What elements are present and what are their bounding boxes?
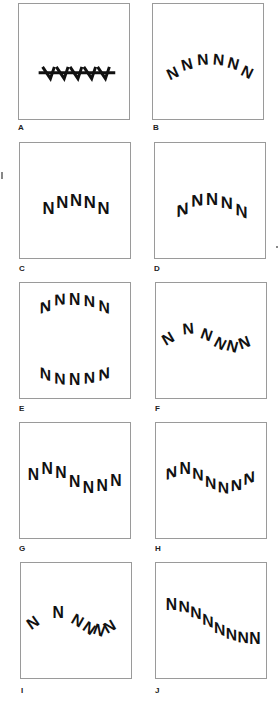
svg-text:N: N — [69, 371, 80, 388]
svg-text:N: N — [97, 477, 108, 494]
svg-text:N: N — [23, 612, 42, 632]
panel-e: N N N N N N N N N N — [19, 282, 131, 399]
svg-text:N: N — [190, 603, 201, 623]
panel-d-label: D — [154, 264, 160, 273]
svg-text:N: N — [202, 610, 213, 632]
svg-text:N: N — [218, 478, 229, 497]
svg-text:N: N — [40, 296, 51, 317]
panel-a-graphic — [19, 4, 129, 119]
panel-j: N N N N N N N N — [155, 562, 267, 679]
svg-text:N: N — [98, 199, 110, 218]
panel-c-label: C — [19, 264, 25, 273]
panel-b-label: B — [153, 123, 159, 132]
panel-i: N N N N N N — [20, 562, 132, 679]
panel-a-label: A — [18, 123, 24, 132]
svg-text:N: N — [40, 363, 51, 384]
panel-h-label: H — [155, 544, 161, 553]
panel-j-label: J — [155, 686, 159, 695]
svg-text:N: N — [226, 54, 241, 73]
panel-e-graphic: N N N N N N N N N N — [20, 283, 130, 398]
svg-text:N: N — [84, 193, 96, 212]
svg-text:N: N — [56, 193, 68, 212]
panel-j-graphic: N N N N N N N N — [156, 563, 266, 678]
svg-text:N: N — [231, 476, 242, 495]
svg-text:N: N — [197, 51, 210, 69]
svg-text:N: N — [192, 464, 203, 484]
svg-text:N: N — [179, 55, 194, 74]
panel-f: N N N N N N — [155, 282, 267, 399]
svg-text:N: N — [221, 193, 233, 214]
svg-text:N: N — [54, 369, 65, 388]
svg-text:N: N — [206, 190, 218, 209]
svg-text:N: N — [249, 630, 260, 647]
svg-text:N: N — [179, 598, 190, 616]
svg-text:N: N — [69, 473, 80, 490]
svg-text:N: N — [236, 332, 252, 352]
svg-text:N: N — [212, 50, 225, 68]
panel-e-label: E — [19, 404, 24, 413]
svg-text:N: N — [99, 363, 110, 384]
svg-text:N: N — [166, 596, 177, 613]
panel-g: N N N N N N N — [19, 422, 131, 539]
svg-text:N: N — [191, 190, 203, 211]
svg-text:N: N — [205, 472, 216, 493]
svg-text:N: N — [54, 290, 65, 309]
panel-b: N N N N N N — [152, 3, 264, 120]
svg-text:N: N — [69, 291, 80, 308]
svg-text:N: N — [214, 618, 225, 640]
svg-text:N: N — [84, 292, 95, 311]
svg-text:N: N — [239, 62, 257, 82]
svg-text:N: N — [180, 460, 191, 477]
panel-i-graphic: N N N N N N — [21, 563, 131, 678]
svg-text:N: N — [42, 460, 53, 477]
svg-text:N: N — [28, 466, 39, 483]
svg-text:N: N — [198, 324, 214, 344]
panel-c-graphic: N N N N N — [20, 143, 130, 258]
svg-text:N: N — [236, 199, 248, 223]
svg-text:N: N — [55, 464, 66, 481]
panel-b-graphic: N N N N N N — [153, 4, 263, 119]
svg-text:N: N — [159, 328, 177, 348]
panel-f-label: F — [155, 404, 160, 413]
panel-i-label: I — [21, 686, 23, 695]
panel-c: N N N N N — [19, 142, 131, 259]
svg-text:N: N — [110, 472, 121, 489]
svg-text:N: N — [164, 63, 181, 83]
margin-mark — [1, 172, 3, 179]
svg-text:N: N — [99, 296, 110, 317]
panel-a — [18, 3, 130, 120]
svg-text:N: N — [182, 320, 195, 338]
svg-text:N: N — [52, 604, 63, 621]
margin-dot — [276, 246, 278, 248]
svg-text:N: N — [70, 191, 82, 210]
svg-text:N: N — [243, 467, 254, 489]
panel-d-graphic: N N N N N — [155, 143, 265, 258]
svg-text:N: N — [177, 198, 189, 222]
svg-text:N: N — [226, 625, 237, 645]
panel-h: N N N N N N N — [155, 422, 267, 539]
svg-text:N: N — [166, 462, 177, 484]
panel-g-graphic: N N N N N N N — [20, 423, 130, 538]
svg-text:N: N — [84, 369, 95, 388]
panel-f-graphic: N N N N N N — [156, 283, 266, 398]
panel-g-label: G — [19, 544, 25, 553]
svg-text:N: N — [83, 479, 94, 496]
svg-text:N: N — [238, 628, 249, 646]
svg-text:N: N — [43, 199, 55, 218]
panel-d: N N N N N — [154, 142, 266, 259]
panel-h-graphic: N N N N N N N — [156, 423, 266, 538]
